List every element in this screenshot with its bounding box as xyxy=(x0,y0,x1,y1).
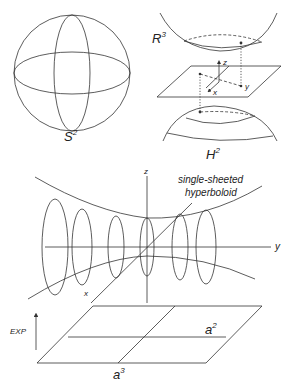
hyperboloid-caption-line1: single-sheeted xyxy=(178,174,243,185)
plane-z-label: z xyxy=(222,58,227,67)
algebra-plane-outline xyxy=(37,306,262,363)
lower-dome-rim xyxy=(167,133,273,140)
hyperboloid: z y x single-sheeted hyperboloid xyxy=(28,167,281,303)
lower-dome-front xyxy=(186,116,255,124)
sphere-s2: S2 xyxy=(14,15,130,144)
geodesic-chord xyxy=(200,74,241,86)
tangent-plane: z x y xyxy=(157,43,281,112)
plane-y-label: y xyxy=(244,82,250,91)
hyperboloid-x-axis xyxy=(91,203,192,303)
a3-axis-line xyxy=(118,306,175,363)
hyperbolic-label: H2 xyxy=(206,146,220,162)
exp-label: EXP xyxy=(10,327,27,336)
a2-label: a2 xyxy=(205,321,217,337)
hyperboloid-x-label: x xyxy=(83,289,89,298)
sphere-equator xyxy=(14,52,130,94)
a3-label: a3 xyxy=(113,366,125,382)
lie-algebra-plane: a2 a3 xyxy=(37,306,262,382)
plane-x-label: x xyxy=(212,88,218,97)
upper-sheet: R3 xyxy=(152,13,277,51)
lower-point xyxy=(199,111,202,114)
hyperboloid-bottom-curve xyxy=(28,256,255,299)
hyperboloid-y-label: y xyxy=(274,241,281,252)
exp-map: EXP xyxy=(10,315,36,350)
upper-bowl-back xyxy=(184,35,262,42)
lower-sheet: H2 xyxy=(163,106,277,162)
sphere-meridian xyxy=(54,15,90,131)
hyperboloid-z-label: z xyxy=(143,167,148,176)
geometry-diagram: S2 R3 z x y H2 xyxy=(0,0,291,390)
ambient-label: R3 xyxy=(152,30,166,46)
upper-bowl-outer xyxy=(160,13,277,51)
plane-x-line xyxy=(206,66,229,88)
sphere-outline xyxy=(14,15,130,131)
hyperboloid-caption-line2: hyperboloid xyxy=(185,187,237,198)
sphere-label: S2 xyxy=(64,128,78,144)
